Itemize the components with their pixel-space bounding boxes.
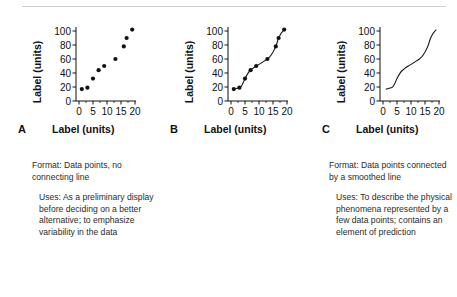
panel-b-ytick-60: 60 — [212, 54, 224, 65]
panel-b-plot: Label (units) 100 80 60 40 20 0 — [152, 10, 304, 138]
panel-c-ytick-60: 60 — [364, 54, 376, 65]
panel-c-ytick-80: 80 — [364, 40, 376, 51]
panel-a-uses-text: Uses: As a preliminary display before de… — [32, 192, 154, 238]
panel-b-data-points — [232, 28, 287, 92]
panel-a-xtick-20: 20 — [129, 106, 141, 117]
panel-c-xtick-0: 0 — [380, 106, 386, 117]
panel-a-ytick-20: 20 — [60, 82, 72, 93]
panel-a-ytick-0: 0 — [65, 96, 71, 107]
panel-a-xtick-5: 5 — [90, 106, 96, 117]
panels-row: Label (units) 100 80 60 40 20 0 — [0, 10, 457, 138]
panel-a-xtick-15: 15 — [115, 106, 127, 117]
panel-a-data-points — [80, 28, 135, 92]
panel-a-letter: A — [18, 123, 26, 135]
panel-b: Label (units) 100 80 60 40 20 0 — [152, 10, 304, 138]
panel-b-xtick-20: 20 — [281, 106, 293, 117]
panel-b-ytick-100: 100 — [206, 26, 223, 37]
panel-b-caption: Format: Data points connected by a smoot… — [329, 160, 455, 239]
panel-b-xtick-10: 10 — [253, 106, 265, 117]
panel-c-plot: Label (units) 100 80 60 40 20 0 — [304, 10, 456, 138]
panel-c-xaxis-title: Label (units) — [356, 123, 418, 135]
panel-c-xtick-15: 15 — [419, 106, 431, 117]
panel-a-xtick-10: 10 — [101, 106, 113, 117]
panel-b-xaxis-title: Label (units) — [204, 123, 266, 135]
panel-a-format-text: Format: Data points, no connecting line — [32, 160, 154, 183]
panel-a-ytick-40: 40 — [60, 68, 72, 79]
panel-c-letter: C — [322, 123, 330, 135]
figure-container: Label (units) 100 80 60 40 20 0 — [0, 0, 457, 297]
panel-a-ytick-100: 100 — [54, 26, 71, 37]
panel-b-ytick-40: 40 — [212, 68, 224, 79]
panel-a-xaxis-title: Label (units) — [52, 123, 114, 135]
panel-a: Label (units) 100 80 60 40 20 0 — [0, 10, 152, 138]
panel-c-ytick-40: 40 — [364, 68, 376, 79]
panel-c-chart-svg: Label (units) 100 80 60 40 20 0 — [304, 10, 456, 138]
panel-c-ytick-0: 0 — [369, 96, 375, 107]
panel-a-caption: Format: Data points, no connecting line … — [32, 160, 154, 239]
top-divider — [22, 6, 446, 7]
panel-b-ylabel: Label (units) — [183, 41, 195, 103]
panel-a-ylabel: Label (units) — [31, 41, 43, 103]
panel-c-xtick-5: 5 — [394, 106, 400, 117]
panel-c-ytick-100: 100 — [358, 26, 375, 37]
panel-b-chart-svg: Label (units) 100 80 60 40 20 0 — [152, 10, 304, 138]
panel-a-chart-svg: Label (units) 100 80 60 40 20 0 — [0, 10, 152, 138]
panel-b-ytick-80: 80 — [212, 40, 224, 51]
panel-b-xtick-15: 15 — [267, 106, 279, 117]
panel-a-plot: Label (units) 100 80 60 40 20 0 — [0, 10, 152, 138]
panel-c-ylabel: Label (units) — [335, 41, 347, 103]
panel-a-ytick-60: 60 — [60, 54, 72, 65]
panel-a-xtick-0: 0 — [76, 106, 82, 117]
panel-c: Label (units) 100 80 60 40 20 0 — [304, 10, 456, 138]
panel-c-smoothed-line — [386, 30, 436, 90]
panel-c-xtick-20: 20 — [433, 106, 445, 117]
panel-b-letter: B — [170, 123, 178, 135]
panel-b-xtick-0: 0 — [228, 106, 234, 117]
panel-b-ytick-0: 0 — [217, 96, 223, 107]
panel-b-xtick-5: 5 — [242, 106, 248, 117]
panel-c-xtick-10: 10 — [405, 106, 417, 117]
panel-b-uses-text: Uses: To describe the physical phenomena… — [329, 192, 455, 238]
panel-c-ytick-20: 20 — [364, 82, 376, 93]
panel-b-format-text: Format: Data points connected by a smoot… — [329, 160, 455, 183]
panel-b-ytick-20: 20 — [212, 82, 224, 93]
panel-a-ytick-80: 80 — [60, 40, 72, 51]
